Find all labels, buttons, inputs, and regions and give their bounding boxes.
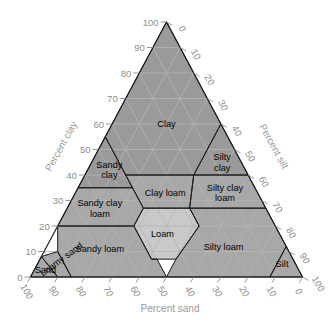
region-label-loam: Loam: [151, 229, 174, 239]
tick-label-clay-10: 10: [26, 246, 37, 257]
soil-texture-triangle-figure: 0102030405060708090100010203040506070809…: [0, 0, 331, 321]
tick-label-clay-90: 90: [134, 42, 145, 53]
tick-label-clay-40: 40: [66, 170, 77, 181]
tick-label-clay-20: 20: [39, 221, 50, 232]
tick-label-clay-60: 60: [94, 119, 105, 130]
region-label-silt: Silt: [276, 259, 289, 269]
region-label-silty-loam: Silty loam: [204, 242, 244, 252]
region-label-sand: Sand: [35, 265, 56, 275]
tick-label-clay-50: 50: [80, 144, 91, 155]
tick-label-clay-0: 0: [17, 272, 22, 283]
region-label-clay-loam: Clay loam: [145, 188, 186, 198]
ternary-diagram-svg: 0102030405060708090100010203040506070809…: [0, 0, 331, 321]
tick-label-clay-30: 30: [53, 195, 64, 206]
axis-title-sand: Percent sand: [141, 303, 200, 314]
tick-label-clay-80: 80: [121, 68, 132, 79]
region-label-silty-clay: Siltyclay: [214, 152, 232, 172]
tick-label-clay-70: 70: [107, 93, 118, 104]
tick-label-clay-100: 100: [143, 17, 159, 28]
region-label-clay: Clay: [157, 119, 176, 129]
